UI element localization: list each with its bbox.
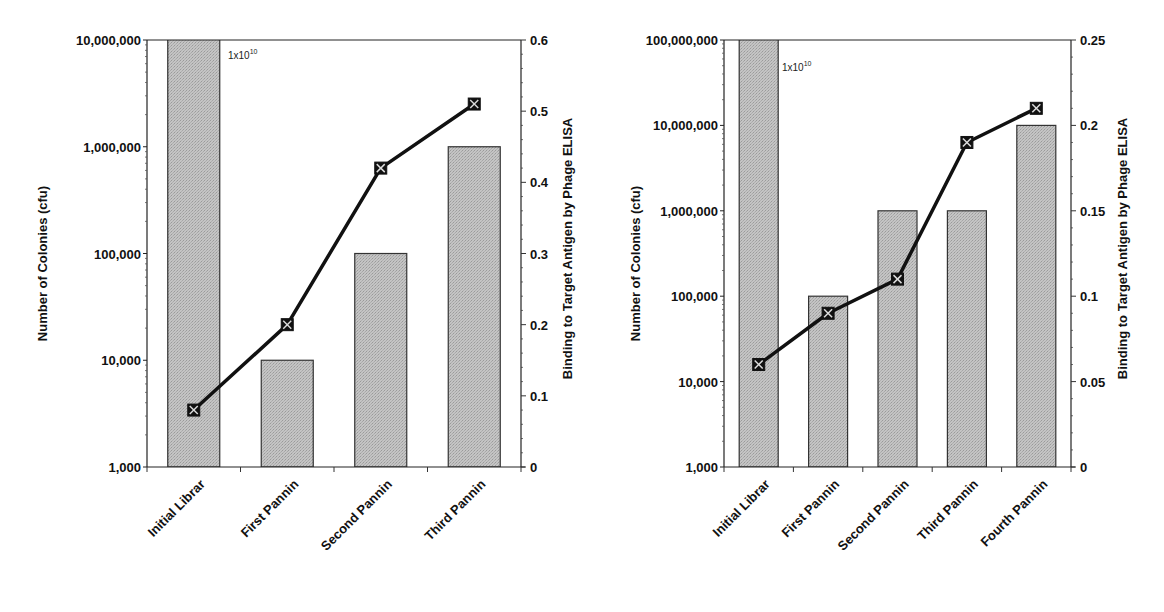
bar	[168, 38, 220, 467]
x-box-marker-icon	[188, 404, 200, 416]
figure: 1,00010,000100,0001,000,00010,000,00000.…	[0, 0, 1164, 612]
y2-tick-label: 0.1	[1080, 289, 1098, 304]
category-label: Third Pannin	[914, 476, 981, 543]
y2-tick-label: 0.3	[530, 247, 548, 262]
x-box-marker-icon	[281, 319, 293, 331]
bar-series	[739, 38, 1056, 467]
elisa-line	[194, 104, 475, 410]
bar	[1017, 125, 1056, 467]
category-label: Initial Librar	[710, 477, 773, 540]
x-box-marker-icon	[892, 273, 904, 285]
bar	[739, 38, 778, 467]
bar-value-annotation: 1x1010	[228, 48, 258, 61]
y2-tick-label: 0.4	[530, 175, 549, 190]
y2-tick-label: 0.05	[1080, 375, 1105, 390]
y-tick-label: 10,000	[678, 375, 718, 390]
y-tick-label: 1,000,000	[660, 204, 718, 219]
chart-right: 1,00010,000100,0001,000,00010,000,000100…	[628, 33, 1130, 554]
y2-axis-title: Binding to Target Antigen by Phage ELISA	[560, 117, 575, 379]
y-tick-label: 100,000,000	[646, 33, 718, 48]
y2-tick-label: 0.6	[530, 33, 548, 48]
x-box-marker-icon	[468, 98, 480, 110]
y-tick-label: 10,000	[101, 353, 141, 368]
category-label: Second Pannin	[835, 476, 912, 553]
chart-left: 1,00010,000100,0001,000,00010,000,00000.…	[35, 33, 575, 554]
y-axis-title: Number of Colonies (cfu)	[35, 186, 50, 341]
y2-tick-label: 0.1	[530, 389, 548, 404]
y-tick-label: 100,000	[671, 289, 718, 304]
y2-tick-label: 0.15	[1080, 204, 1105, 219]
x-box-marker-icon	[961, 136, 973, 148]
y-axis-title: Number of Colonies (cfu)	[628, 186, 643, 341]
category-label: Third Pannin	[422, 476, 489, 543]
x-box-marker-icon	[753, 359, 765, 371]
y-tick-label: 1,000,000	[83, 140, 141, 155]
x-box-marker-icon	[822, 307, 834, 319]
y2-tick-label: 0.2	[530, 318, 548, 333]
category-label: First Pannin	[238, 476, 302, 540]
category-label: First Pannin	[778, 476, 842, 540]
y-tick-label: 10,000,000	[76, 33, 141, 48]
category-label: Initial Librar	[145, 477, 208, 540]
category-label: Fourth Pannin	[978, 476, 1051, 549]
bar-value-annotation: 1x1010	[782, 60, 812, 73]
y-tick-label: 10,000,000	[653, 118, 718, 133]
y2-tick-label: 0	[1080, 460, 1087, 475]
y-tick-label: 100,000	[94, 247, 141, 262]
bar-series	[168, 38, 501, 467]
x-box-marker-icon	[375, 162, 387, 174]
y-tick-label: 1,000	[108, 460, 141, 475]
y2-tick-label: 0.2	[1080, 118, 1098, 133]
y2-tick-label: 0.25	[1080, 33, 1105, 48]
bar	[261, 360, 313, 467]
y2-tick-label: 0.5	[530, 104, 548, 119]
y-tick-label: 1,000	[685, 460, 718, 475]
y2-tick-label: 0	[530, 460, 537, 475]
bar	[448, 147, 500, 467]
category-label: Second Pannin	[318, 476, 395, 553]
y2-axis-title: Binding to Target Antigen by Phage ELISA	[1115, 117, 1130, 379]
bar	[947, 211, 986, 467]
x-box-marker-icon	[1030, 102, 1042, 114]
bar	[355, 254, 407, 468]
